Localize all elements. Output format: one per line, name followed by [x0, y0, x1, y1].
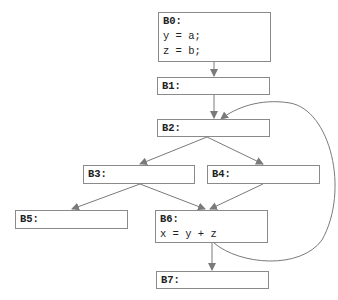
- block-b7-label: B7:: [161, 273, 264, 288]
- edge-b4-b6: [210, 184, 263, 209]
- block-b2-label: B2:: [162, 121, 265, 136]
- edge-b3-b5: [72, 184, 140, 209]
- edge-b2-b4: [207, 137, 263, 164]
- block-b6-line-1: x = y + z: [160, 227, 263, 242]
- block-b7: B7:: [156, 271, 269, 289]
- block-b2: B2:: [157, 119, 270, 137]
- block-b6: B6: x = y + z: [155, 210, 268, 243]
- block-b0: B0: y = a; z = b;: [158, 12, 271, 62]
- block-b0-line-1: y = a;: [163, 29, 266, 44]
- block-b5: B5:: [15, 210, 128, 229]
- block-b1: B1:: [157, 77, 270, 95]
- block-b1-label: B1:: [162, 79, 265, 94]
- block-b5-label: B5:: [20, 212, 123, 227]
- block-b4: B4:: [207, 165, 320, 184]
- edge-b2-b3: [140, 137, 207, 164]
- block-b0-label: B0:: [163, 14, 266, 29]
- block-b6-label: B6:: [160, 212, 263, 227]
- block-b0-line-2: z = b;: [163, 44, 266, 59]
- block-b4-label: B4:: [212, 167, 315, 182]
- edge-b3-b6: [140, 184, 205, 209]
- block-b3: B3:: [83, 165, 195, 184]
- block-b3-label: B3:: [88, 167, 190, 182]
